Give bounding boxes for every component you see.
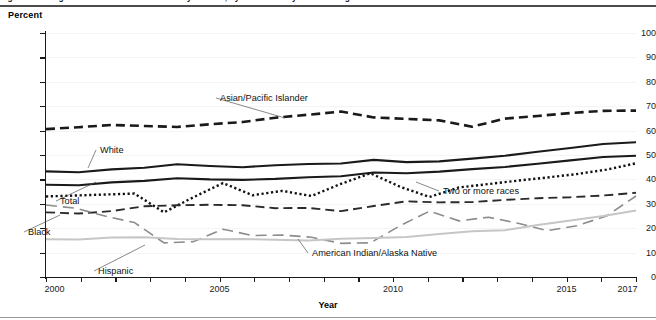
series-label-two-or-more-races: Two or more races — [443, 186, 519, 196]
series-line-asian-pacific-islander — [46, 111, 636, 130]
leader-line — [88, 150, 96, 168]
series-line-total — [46, 156, 636, 186]
series-line-american-indian-alaska-native — [46, 196, 636, 243]
series-label-hispanic: Hispanic — [98, 266, 133, 276]
series-line-hispanic — [46, 210, 636, 240]
series-label-white: White — [100, 145, 124, 155]
series-line-white — [46, 142, 636, 172]
series-line-two-or-more-races — [46, 163, 636, 212]
series-label-total: Total — [60, 196, 79, 206]
series-label-black: Black — [28, 227, 50, 237]
footer-divider-rule — [0, 317, 656, 318]
series-label-american-indian-alaska-native: American Indian/Alaska Native — [312, 248, 437, 258]
series-line-black — [46, 193, 636, 214]
x-axis-title: Year — [0, 300, 656, 310]
leader-line — [416, 182, 439, 191]
figure-root: Figure 1. College enrollment rates of 18… — [0, 0, 656, 320]
series-label-asian-pacific-islander: Asian/Pacific Islander — [220, 93, 308, 103]
